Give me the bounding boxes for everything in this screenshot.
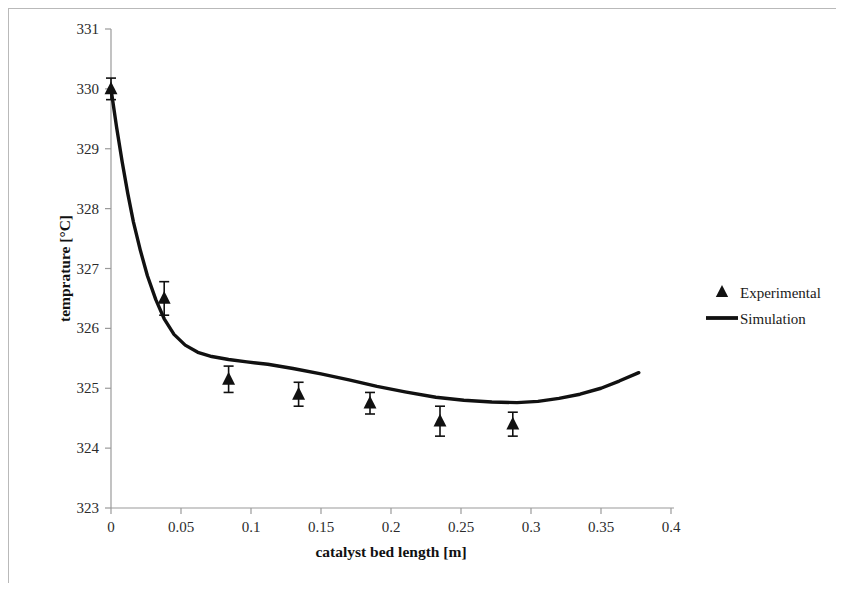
x-axis-tick-label: 0.2 [382, 519, 401, 535]
chart-plot-area: 32332432532632732832933033100.050.10.150… [0, 0, 844, 591]
y-axis-tick-label: 329 [77, 141, 100, 157]
x-axis-tick-label: 0 [107, 519, 115, 535]
y-axis-tick-label: 330 [77, 81, 100, 97]
y-axis-tick-label: 324 [77, 440, 100, 456]
y-axis-tick-label: 327 [77, 261, 100, 277]
experimental-data-point [434, 406, 447, 436]
triangle-marker [506, 417, 519, 430]
figure-container: 32332432532632732832933033100.050.10.150… [0, 0, 844, 591]
triangle-marker [434, 414, 447, 427]
y-axis-tick-label: 328 [77, 201, 100, 217]
y-axis-tick-label: 326 [77, 320, 100, 336]
x-axis-tick-label: 0.05 [168, 519, 194, 535]
experimental-data-point [222, 366, 235, 392]
x-axis-tick-label: 0.35 [588, 519, 614, 535]
series-group [105, 78, 639, 436]
x-axis-tick-label: 0.15 [308, 519, 334, 535]
x-axis-tick-label: 0.1 [242, 519, 261, 535]
x-axis-tick-label: 0.3 [522, 519, 541, 535]
legend-label-experimental: Experimental [740, 285, 821, 301]
legend-triangle-marker-icon [716, 285, 728, 297]
x-axis-title: catalyst bed length [m] [315, 543, 466, 560]
x-axis-tick-label: 0.4 [662, 519, 681, 535]
y-axis-title: temprature [°C] [56, 215, 73, 322]
x-axis-tick-label: 0.25 [448, 519, 474, 535]
y-axis-tick-label: 325 [77, 380, 100, 396]
triangle-marker [292, 387, 305, 400]
y-axis-tick-label: 331 [77, 21, 100, 37]
legend-group: ExperimentalSimulation [706, 285, 821, 327]
triangle-marker [222, 372, 235, 385]
y-axis-tick-label: 323 [77, 500, 100, 516]
legend-label-simulation: Simulation [740, 311, 806, 327]
triangle-marker [158, 291, 171, 304]
experimental-data-point [292, 382, 305, 406]
triangle-marker [364, 396, 377, 409]
simulation-line [111, 89, 639, 403]
experimental-data-point [364, 392, 377, 414]
triangle-marker [105, 81, 118, 94]
experimental-data-point [506, 412, 519, 436]
axes-group: 32332432532632732832933033100.050.10.150… [77, 21, 681, 535]
